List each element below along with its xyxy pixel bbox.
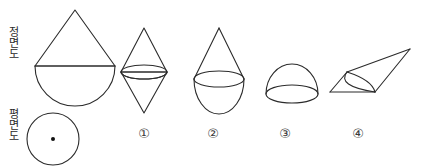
given-front-view <box>35 10 115 106</box>
orthographic-projection-figure: 정면도 평면도 <box>0 0 421 166</box>
option-3-shape[interactable] <box>266 64 318 103</box>
option-2-shape[interactable] <box>194 28 244 114</box>
drawing-canvas <box>0 0 421 166</box>
front-view-cone-outline <box>35 10 115 66</box>
option-4-shape[interactable] <box>330 49 410 92</box>
option-4-base-left-edge <box>330 72 347 92</box>
option-number-1[interactable]: ① <box>134 126 154 141</box>
option-number-2[interactable]: ② <box>203 126 223 141</box>
option-1-shape[interactable] <box>121 28 167 113</box>
option-3-dome-arc <box>266 64 318 94</box>
option-1-ellipse-front-arc <box>121 72 167 79</box>
option-4-base-ellipse-far <box>345 72 375 92</box>
option-1-lower-cone <box>121 72 167 113</box>
option-2-junction-ellipse <box>194 71 244 87</box>
option-number-3[interactable]: ③ <box>275 126 295 141</box>
given-top-view <box>27 113 79 165</box>
front-view-hemisphere-arc <box>35 66 115 106</box>
option-3-base-ellipse <box>266 85 318 103</box>
top-view-center-dot <box>51 137 55 141</box>
option-number-4[interactable]: ④ <box>348 126 368 141</box>
